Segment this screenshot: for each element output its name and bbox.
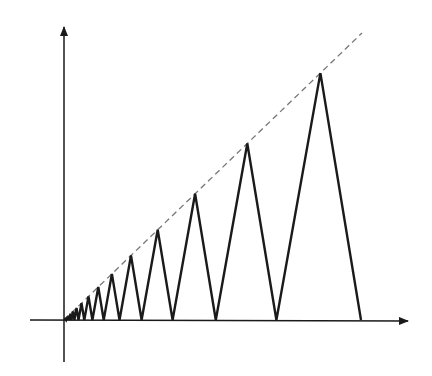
x-axis [30, 320, 408, 321]
zigzag-spikes [64, 73, 361, 320]
dashed-bounding-line [64, 33, 362, 320]
diagram-canvas [0, 0, 432, 376]
